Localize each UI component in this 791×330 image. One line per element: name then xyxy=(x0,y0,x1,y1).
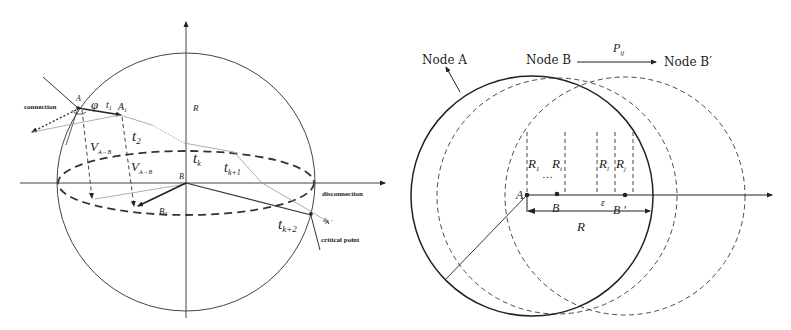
dotted-back-vector xyxy=(32,110,76,132)
label-r: R xyxy=(576,219,585,234)
label-disconnection: disconnection xyxy=(322,190,363,198)
right-diagram: Node A Node B Pij Node B′ R1 Ri Rl Rj … … xyxy=(411,41,772,316)
label-v-ab-2: VA→B xyxy=(131,159,153,175)
label-tk: tk xyxy=(193,150,201,168)
label-point-b: B xyxy=(179,172,184,181)
label-p-ij: Pij xyxy=(612,41,624,57)
vector-a-a1 xyxy=(78,108,121,115)
label-node-b: Node B xyxy=(526,53,571,67)
exit-line xyxy=(310,212,320,250)
point-b-prime-dot xyxy=(623,193,628,198)
label-point-a: A xyxy=(75,94,81,103)
label-rl: Rl xyxy=(598,156,609,173)
label-node-b-prime: Node B′ xyxy=(664,55,712,69)
label-critical-point: critical point xyxy=(321,236,360,244)
vector-b-critical xyxy=(186,183,311,215)
point-a-dot xyxy=(525,193,530,198)
point-b-dot xyxy=(555,192,560,197)
label-connection: connection xyxy=(24,103,56,111)
point-a-dot xyxy=(76,106,80,110)
label-rj: Rj xyxy=(615,156,626,173)
label-a1: A1 xyxy=(117,101,127,113)
label-node-a: Node A xyxy=(422,53,467,67)
trajectory-dotted xyxy=(152,125,184,143)
label-phi: φ xyxy=(91,97,98,112)
vector-b-b1 xyxy=(138,183,186,206)
label-point-b-prime: B ′ xyxy=(613,203,626,217)
label-dots: … xyxy=(542,168,553,180)
critical-point-dot xyxy=(309,212,313,216)
node-a-pointer xyxy=(446,67,460,92)
label-r: R xyxy=(192,103,199,113)
label-t1: t1 xyxy=(106,99,112,111)
label-tk1: tk+1 xyxy=(224,160,241,177)
label-a-prime: A ' xyxy=(324,218,333,226)
label-point-b: B xyxy=(552,201,560,215)
radius-line xyxy=(446,195,527,279)
projection-a xyxy=(82,110,92,198)
figure-canvas: A connection φ t1 A1 R t2 VA→B VA→B tk t… xyxy=(0,0,791,330)
label-epsilon: ε xyxy=(601,197,605,208)
label-b1: B1 xyxy=(159,206,168,217)
left-diagram: A connection φ t1 A1 R t2 VA→B VA→B tk t… xyxy=(20,22,385,318)
label-t2: t2 xyxy=(132,128,141,146)
label-v-ab-1: VA→B xyxy=(90,139,112,155)
projected-path xyxy=(95,184,186,199)
label-r1: R1 xyxy=(527,156,539,173)
label-point-a: A xyxy=(515,188,524,202)
node-a-range-circle xyxy=(411,76,653,316)
label-tk2: tk+2 xyxy=(278,216,297,234)
